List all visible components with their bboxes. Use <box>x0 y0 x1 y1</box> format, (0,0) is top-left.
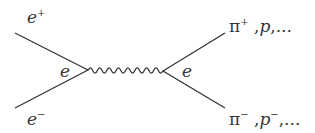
outgoing-bottom-line <box>163 71 225 108</box>
label-electron: e− <box>27 110 45 128</box>
label-outgoing-bottom: π− ,p−,... <box>229 110 300 128</box>
label-right-vertex: e <box>182 63 192 80</box>
label-positron: e+ <box>27 8 45 26</box>
photon-propagator <box>88 68 163 73</box>
incoming-electron-line <box>15 70 88 108</box>
label-outgoing-top: π+ ,p,... <box>229 17 292 35</box>
incoming-positron-line <box>15 33 88 70</box>
label-left-vertex: e <box>60 63 70 80</box>
outgoing-top-line <box>163 33 225 71</box>
feynman-diagram: e+ e− e e π+ ,p,... π− ,p−,... <box>0 0 315 133</box>
